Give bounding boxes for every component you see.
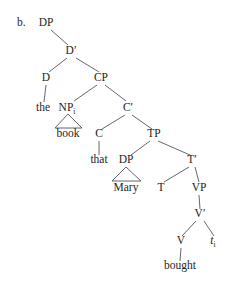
- node-vbar: V′: [195, 207, 206, 219]
- branch-dbar-cp: [76, 58, 99, 72]
- node-trace-subscript: i: [214, 240, 216, 249]
- node-dp-top: DP: [39, 16, 54, 28]
- branch-dbar-d: [49, 58, 67, 72]
- branch-tp-dp: [131, 141, 150, 155]
- leaf-bought: bought: [164, 259, 197, 272]
- leaf-the: the: [36, 101, 50, 113]
- branch-tbar-vp: [195, 167, 199, 182]
- syntax-tree-figure: b. DP D′ D CP the NPi C′ book C TP that …: [0, 0, 235, 283]
- node-c: C: [95, 127, 103, 139]
- branch-cp-cbar: [105, 85, 126, 101]
- triangle-dp-mary: [112, 167, 141, 181]
- node-cbar: C′: [123, 101, 133, 113]
- node-v: V: [177, 234, 186, 246]
- tree-branches: [44, 30, 214, 261]
- node-cp: CP: [94, 71, 108, 83]
- tree-node-labels: b. DP D′ D CP the NPi C′ book C TP that …: [17, 16, 216, 272]
- figure-item-letter: b.: [17, 16, 26, 28]
- node-np-subscript: i: [73, 107, 75, 116]
- branch-cbar-c: [102, 115, 125, 129]
- node-tbar: T′: [187, 153, 197, 165]
- node-dp-subject: DP: [119, 153, 134, 165]
- node-vp: VP: [192, 181, 207, 193]
- leaf-that: that: [90, 153, 108, 165]
- branch-dp-dbar: [51, 30, 68, 45]
- tree-triangles: [55, 114, 141, 181]
- node-d: D: [42, 71, 50, 83]
- branch-tbar-t: [164, 167, 189, 182]
- branch-d-the: [44, 85, 46, 102]
- node-np: NPi: [59, 101, 76, 116]
- node-np-text: NP: [59, 101, 74, 113]
- node-trace: ti: [210, 234, 215, 249]
- tree-canvas: b. DP D′ D CP the NPi C′ book C TP that …: [0, 0, 235, 283]
- leaf-mary: Mary: [114, 181, 139, 194]
- leaf-book: book: [57, 127, 80, 139]
- branch-cp-np: [74, 85, 97, 101]
- node-t: T: [157, 181, 164, 193]
- node-dbar: D′: [66, 44, 77, 56]
- triangle-np-book: [55, 114, 82, 128]
- node-tp: TP: [147, 127, 160, 139]
- branch-tp-tbar: [158, 141, 190, 155]
